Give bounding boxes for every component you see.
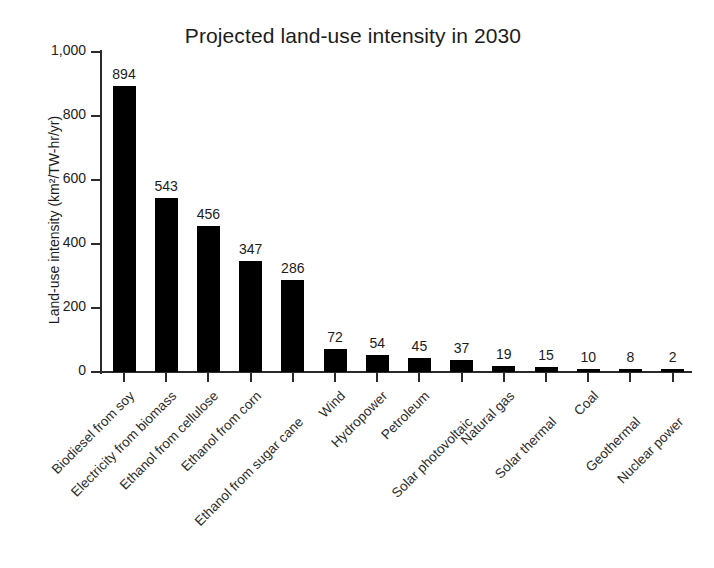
x-tick-mark xyxy=(629,372,631,382)
x-tick-mark xyxy=(250,372,252,382)
x-tick-mark xyxy=(207,372,209,382)
bar xyxy=(619,369,642,372)
bar xyxy=(492,366,515,372)
bar xyxy=(450,360,473,372)
bar xyxy=(155,198,178,372)
bar xyxy=(408,358,431,372)
bar xyxy=(661,369,684,372)
y-tick-label: 600 xyxy=(28,170,86,186)
x-axis-label: Natural gas xyxy=(365,388,517,540)
x-tick-mark xyxy=(165,372,167,382)
x-axis-label: Biodiesel from soy xyxy=(0,388,137,540)
x-tick-mark xyxy=(376,372,378,382)
x-axis-line xyxy=(100,371,692,373)
y-tick-label: 400 xyxy=(28,234,86,250)
x-tick-mark xyxy=(672,372,674,382)
bar xyxy=(577,369,600,372)
x-tick-mark xyxy=(545,372,547,382)
y-tick-mark xyxy=(91,307,100,309)
y-axis-line xyxy=(100,50,102,374)
bar xyxy=(239,261,262,372)
bar-value-label: 456 xyxy=(178,206,238,222)
bar xyxy=(281,280,304,372)
y-tick-mark xyxy=(91,115,100,117)
bar-value-label: 2 xyxy=(643,349,703,365)
x-tick-mark xyxy=(123,372,125,382)
bar xyxy=(324,349,347,372)
bar xyxy=(535,367,558,372)
x-tick-mark xyxy=(461,372,463,382)
x-tick-mark xyxy=(587,372,589,382)
x-tick-mark xyxy=(503,372,505,382)
bar xyxy=(113,86,136,372)
bar-value-label: 347 xyxy=(221,241,281,257)
x-tick-mark xyxy=(292,372,294,382)
x-axis-label-text: Wind xyxy=(316,388,348,420)
bar-value-label: 543 xyxy=(136,178,196,194)
y-tick-label: 800 xyxy=(28,106,86,122)
bar-value-label: 894 xyxy=(94,66,154,82)
y-tick-mark xyxy=(91,243,100,245)
x-axis-label-text: Coal xyxy=(571,388,601,418)
y-tick-label: 1,000 xyxy=(28,42,86,58)
y-tick-label: 0 xyxy=(28,362,86,378)
x-axis-label: Solar thermal xyxy=(407,414,559,566)
chart-title: Projected land-use intensity in 2030 xyxy=(118,24,588,48)
x-axis-label: Wind xyxy=(196,388,348,540)
bar-value-label: 286 xyxy=(263,260,323,276)
bar xyxy=(197,226,220,372)
bar xyxy=(366,355,389,372)
x-tick-mark xyxy=(418,372,420,382)
y-tick-mark xyxy=(91,51,100,53)
y-tick-mark xyxy=(91,179,100,181)
chart-figure: Projected land-use intensity in 2030 Lan… xyxy=(0,0,714,568)
y-tick-label: 200 xyxy=(28,298,86,314)
x-tick-mark xyxy=(334,372,336,382)
y-tick-mark xyxy=(91,371,100,373)
